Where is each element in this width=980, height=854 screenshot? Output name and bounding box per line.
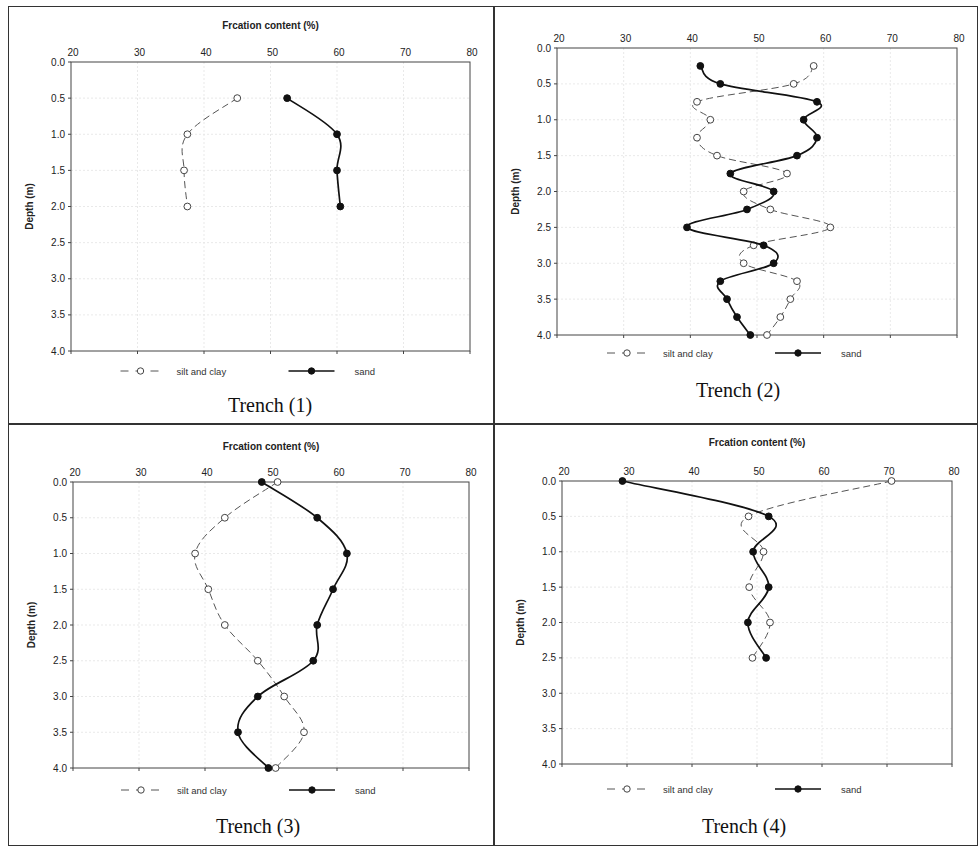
y-tick-label: 3.0	[542, 688, 556, 699]
series-silt-and-clay	[741, 478, 895, 662]
y-tick-label: 2.0	[542, 617, 556, 628]
y-tick-label: 1.0	[542, 546, 556, 557]
y-tick-label: 0.5	[542, 511, 556, 522]
data-point	[746, 584, 753, 591]
y-axis: 0.00.51.01.52.02.53.03.54.0	[542, 476, 562, 770]
legend-filled-circle-icon	[795, 786, 801, 792]
x-tick-label: 30	[623, 466, 635, 477]
caption-trench-4: Trench (4)	[644, 815, 844, 838]
x-tick-label: 80	[948, 466, 960, 477]
x-axis: 20304050607080	[558, 466, 960, 767]
data-point	[750, 548, 757, 555]
data-point	[765, 584, 772, 591]
data-point	[745, 513, 752, 520]
data-point	[619, 478, 626, 485]
y-tick-label: 2.5	[542, 652, 556, 663]
y-tick-label: 4.0	[542, 759, 556, 770]
y-axis-label: Depth (m)	[515, 599, 526, 646]
x-tick-label: 20	[558, 466, 570, 477]
x-tick-label: 70	[883, 466, 895, 477]
x-tick-label: 40	[688, 466, 700, 477]
y-tick-label: 0.0	[542, 476, 556, 487]
legend-label-sand: sand	[841, 784, 862, 795]
data-point	[745, 619, 752, 626]
gridlines	[562, 481, 952, 764]
y-tick-label: 3.5	[542, 723, 556, 734]
data-point	[749, 654, 756, 661]
y-tick-label: 1.5	[542, 582, 556, 593]
data-point	[760, 548, 767, 555]
chart-trench-4: 203040506070800.00.51.01.52.02.53.03.54.…	[0, 0, 980, 854]
data-point	[767, 619, 774, 626]
x-tick-label: 60	[818, 466, 830, 477]
x-axis-title: Frcation content (%)	[709, 437, 806, 448]
data-point	[763, 654, 770, 661]
data-point	[888, 478, 895, 485]
legend-open-circle-icon	[624, 786, 630, 792]
data-point	[765, 513, 772, 520]
series-sand	[619, 478, 776, 662]
x-tick-label: 50	[753, 466, 765, 477]
legend-label-silt-and-clay: silt and clay	[663, 784, 713, 795]
legend: silt and claysand	[607, 784, 862, 795]
